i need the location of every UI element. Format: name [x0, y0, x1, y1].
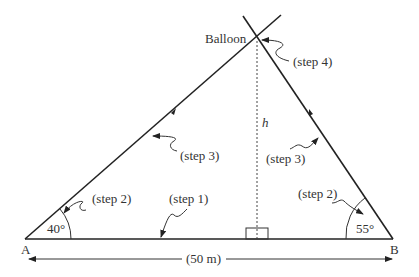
right-line-direction-arrow	[309, 109, 313, 116]
step3-left-label: (step 3)	[180, 148, 219, 163]
step2-left-label: (step 2)	[92, 191, 131, 206]
step3-left-pointer	[153, 136, 177, 151]
step2-right-pointer	[332, 200, 363, 214]
step3-right-pointer	[290, 138, 318, 149]
step1-pointer	[161, 209, 187, 237]
balloon-triangulation-diagram: Balloon (step 4) (step 3) h (step 3) (st…	[0, 0, 419, 277]
step2-left-pointer	[64, 201, 86, 213]
point-b-label: B	[390, 242, 399, 257]
baseline-length-label: (50 m)	[186, 251, 221, 266]
left-sight-line	[25, 15, 281, 239]
angle-b-label: 55°	[356, 221, 374, 236]
step1-label: (step 1)	[169, 191, 208, 206]
step2-right-label: (step 2)	[298, 186, 337, 201]
height-label: h	[262, 115, 269, 130]
step4-label: (step 4)	[293, 54, 332, 69]
balloon-label: Balloon	[205, 31, 247, 46]
angle-a-label: 40°	[47, 221, 65, 236]
step3-right-label: (step 3)	[266, 151, 305, 166]
point-a-label: A	[21, 242, 31, 257]
